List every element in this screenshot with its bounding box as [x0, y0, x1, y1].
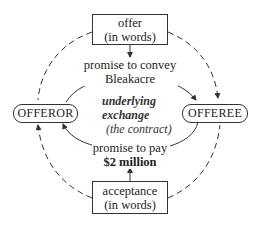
dashed-arc-acceptance-to-offeror [38, 125, 92, 198]
center-line2: exchange [102, 108, 182, 122]
promise-pay-line1: promise to pay [92, 141, 168, 155]
offeror-label: OFFEROR [17, 106, 73, 120]
center-line3: (the contract) [102, 122, 182, 136]
promise-convey-line1: promise to convey [82, 58, 178, 72]
offeree-label: OFFEREE [188, 106, 242, 120]
offer-line1: offer [93, 16, 167, 30]
promise-pay-label: promise to pay $2 million [92, 141, 168, 169]
curve-pay-to-offeror [63, 124, 95, 146]
acceptance-line1: acceptance [93, 184, 167, 198]
acceptance-line2: (in words) [93, 198, 167, 212]
center-line1: underlying [102, 94, 182, 108]
promise-pay-line2: $2 million [92, 155, 168, 169]
offer-line2: (in words) [93, 30, 167, 44]
center-label: underlying exchange (the contract) [102, 94, 182, 136]
promise-convey-line2: Bleakacre [103, 72, 157, 86]
offeree-node: OFFEREE [182, 104, 248, 123]
acceptance-box: acceptance (in words) [92, 181, 168, 214]
offer-box: offer (in words) [92, 14, 168, 45]
promise-convey-label: promise to convey Bleakacre [82, 58, 178, 86]
offeror-node: OFFEROR [13, 104, 78, 123]
